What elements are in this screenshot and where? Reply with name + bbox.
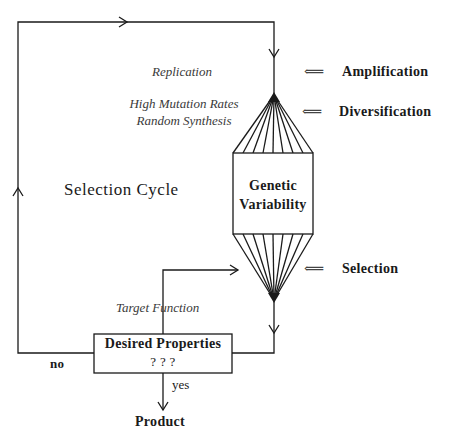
amplification-label: Amplification — [342, 64, 428, 80]
desired-properties-question: ? ? ? — [94, 354, 232, 370]
mutation-label-line2: Random Synthesis — [120, 113, 248, 129]
variability-line2: Variability — [233, 197, 313, 213]
target-function-label: Target Function — [116, 300, 199, 316]
selection-cycle-title: Selection Cycle — [64, 180, 179, 200]
stage-arrow-icon: ⟸ — [302, 103, 322, 120]
replication-label: Replication — [152, 64, 212, 80]
stage-arrow-icon: ⟸ — [304, 63, 324, 80]
stage-arrow-icon: ⟸ — [304, 260, 324, 277]
diversification-label: Diversification — [339, 104, 431, 120]
selection-fan-bottom — [233, 234, 313, 300]
mutation-label-line1: High Mutation Rates — [120, 96, 248, 112]
desired-properties-line1: Desired Properties — [94, 336, 232, 352]
no-branch-label: no — [50, 356, 64, 372]
yes-branch-label: yes — [172, 377, 189, 393]
fan-top-tip — [268, 92, 280, 102]
selection-label: Selection — [342, 261, 398, 277]
variability-line1: Genetic — [233, 178, 313, 194]
output-to-decision-line — [232, 300, 274, 353]
product-label: Product — [135, 414, 185, 430]
